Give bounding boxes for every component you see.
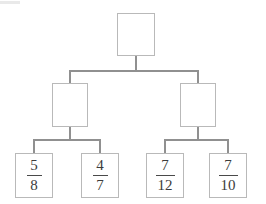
tree-diagram-canvas: 5 8 4 7 7 12 7 10 — [0, 0, 266, 204]
fraction-denominator: 8 — [28, 177, 40, 193]
fraction-bar — [219, 175, 238, 176]
fraction-4-7: 4 7 — [93, 158, 108, 193]
fraction-numerator: 4 — [94, 158, 106, 174]
fraction-denominator: 12 — [156, 177, 175, 193]
tree-node-root[interactable] — [117, 13, 155, 56]
tree-node-leaf-4[interactable]: 7 10 — [209, 153, 247, 198]
tree-node-left-branch[interactable] — [52, 83, 88, 127]
fraction-7-12: 7 12 — [156, 158, 175, 193]
tree-node-leaf-1[interactable]: 5 8 — [15, 153, 53, 198]
corner-artifact — [0, 1, 20, 4]
fraction-denominator: 7 — [94, 177, 106, 193]
tree-node-leaf-2[interactable]: 4 7 — [81, 153, 119, 198]
fraction-bar — [27, 175, 42, 176]
fraction-bar — [93, 175, 108, 176]
tree-node-right-branch[interactable] — [180, 83, 216, 127]
fraction-numerator: 7 — [222, 158, 234, 174]
fraction-denominator: 10 — [219, 177, 238, 193]
fraction-bar — [156, 175, 175, 176]
fraction-5-8: 5 8 — [27, 158, 42, 193]
fraction-numerator: 7 — [159, 158, 171, 174]
tree-node-leaf-3[interactable]: 7 12 — [146, 153, 184, 198]
fraction-7-10: 7 10 — [219, 158, 238, 193]
fraction-numerator: 5 — [28, 158, 40, 174]
